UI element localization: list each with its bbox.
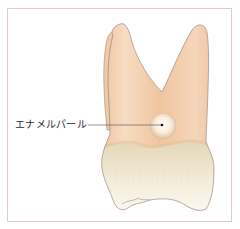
enamel-pearl xyxy=(150,113,176,139)
enamel-pearl-label: エナメルパール xyxy=(15,118,87,132)
leader-dot xyxy=(161,124,164,127)
tooth-illustration xyxy=(0,0,240,229)
